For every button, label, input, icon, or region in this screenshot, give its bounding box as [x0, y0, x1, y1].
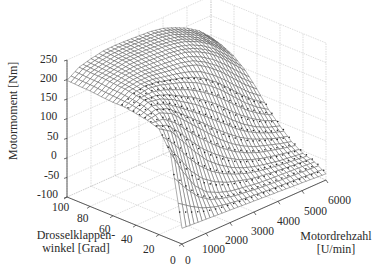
x-tick-4000: 4000: [277, 215, 300, 227]
y-tick-20: 20: [143, 243, 155, 255]
x-tick-0: 0: [185, 254, 191, 266]
x-tick-6000: 6000: [328, 194, 351, 206]
y-tick-0: 0: [170, 254, 176, 266]
torque-surface-mesh: [67, 28, 326, 229]
z-tick-250: 250: [40, 53, 57, 65]
y-tick-100: 100: [52, 201, 69, 213]
y-tick-40: 40: [121, 233, 133, 245]
x-axis-label: Motordrehzahl [U/min]: [290, 230, 382, 256]
x-axis-label-line2: [U/min]: [290, 243, 382, 256]
x-tick-3000: 3000: [251, 225, 274, 237]
z-tick-150: 150: [40, 91, 57, 103]
z-axis-label: Motormoment [Nm]: [6, 62, 21, 160]
z-tick-0: 0: [51, 149, 57, 161]
z-tick-200: 200: [40, 72, 57, 84]
z-tick-50: 50: [47, 130, 59, 142]
z-tick-minus50: -50: [44, 169, 59, 181]
x-tick-5000: 5000: [304, 205, 327, 217]
y-axis-label: Drosselklappen- winkel [Grad]: [36, 229, 116, 255]
z-tick-minus100: -100: [37, 188, 58, 200]
x-tick-2000: 2000: [225, 234, 248, 246]
y-axis-label-line2: winkel [Grad]: [36, 242, 116, 255]
x-tick-1000: 1000: [202, 243, 225, 255]
z-tick-100: 100: [40, 110, 57, 122]
y-tick-80: 80: [77, 212, 89, 224]
